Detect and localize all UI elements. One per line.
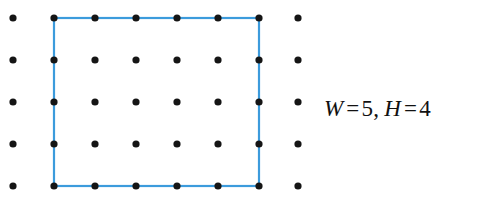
lattice-dot (91, 140, 98, 147)
lattice-dot (50, 98, 57, 105)
lattice-dot (91, 14, 98, 21)
figure-canvas: W=5,H=4 (0, 0, 480, 214)
lattice-dot (173, 56, 180, 63)
lattice-dot (294, 14, 301, 21)
lattice-dot (294, 98, 301, 105)
lattice-dot (9, 14, 16, 21)
lattice-dot (255, 14, 262, 21)
lattice-dot (214, 182, 221, 189)
lattice-dot (9, 140, 16, 147)
lattice-dot (132, 14, 139, 21)
lattice-dot (294, 182, 301, 189)
lattice-dot (91, 98, 98, 105)
lattice-dot (9, 182, 16, 189)
lattice-dot (294, 140, 301, 147)
lattice-dot (173, 140, 180, 147)
lattice-dot (214, 14, 221, 21)
lattice-dot (132, 182, 139, 189)
lattice-dot (255, 140, 262, 147)
lattice-dot (132, 140, 139, 147)
lattice-dot (50, 56, 57, 63)
lattice-dot (132, 98, 139, 105)
lattice-dot (173, 182, 180, 189)
lattice-dot (255, 98, 262, 105)
dimension-label: W=5,H=4 (324, 96, 431, 122)
lattice-dot (9, 98, 16, 105)
lattice-dot (294, 56, 301, 63)
lattice-dot (173, 98, 180, 105)
lattice-dot (132, 56, 139, 63)
height-variable: H (384, 96, 402, 121)
height-value: 4 (419, 96, 431, 121)
width-value: 5 (362, 96, 374, 121)
label-separator: , (373, 96, 384, 121)
width-variable: W (324, 96, 344, 121)
lattice-dot (214, 98, 221, 105)
lattice-dot (9, 56, 16, 63)
lattice-dot (91, 182, 98, 189)
lattice-dot (173, 14, 180, 21)
height-equals-sign: = (402, 96, 419, 121)
figure-background (0, 0, 320, 214)
lattice-dot (50, 14, 57, 21)
lattice-dot (255, 56, 262, 63)
lattice-dot (255, 182, 262, 189)
lattice-dot (50, 140, 57, 147)
lattice-dot (214, 140, 221, 147)
lattice-dot (50, 182, 57, 189)
lattice-dot (214, 56, 221, 63)
lattice-grid-figure (0, 0, 320, 214)
lattice-dot (91, 56, 98, 63)
width-equals-sign: = (344, 96, 361, 121)
